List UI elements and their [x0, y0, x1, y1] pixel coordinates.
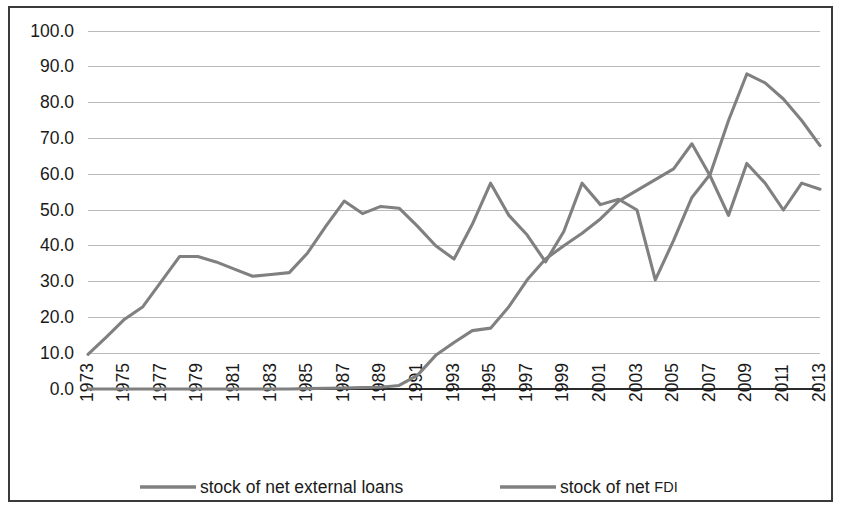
x-axis-tick-labels: 1973197519771979198119831985198719891991… [77, 363, 829, 402]
x-tick-label: 2009 [735, 363, 755, 402]
y-tick-label: 60.0 [40, 164, 74, 184]
chart-legend: stock of net external loansstock of net … [140, 477, 678, 497]
y-tick-label: 50.0 [40, 200, 74, 220]
y-tick-label: 70.0 [40, 128, 74, 148]
x-tick-label: 1989 [369, 363, 389, 402]
y-tick-label: 20.0 [40, 307, 74, 327]
x-tick-label: 1995 [479, 363, 499, 402]
x-tick-label: 2003 [626, 363, 646, 402]
x-tick-label: 1979 [186, 363, 206, 402]
y-tick-label: 40.0 [40, 235, 74, 255]
plot-wrapper: 0.010.020.030.040.050.060.070.080.090.01… [0, 0, 841, 516]
y-tick-label: 10.0 [40, 343, 74, 363]
x-tick-label: 1993 [443, 363, 463, 402]
x-tick-label: 2007 [699, 363, 719, 402]
chart-figure: 0.010.020.030.040.050.060.070.080.090.01… [0, 0, 841, 516]
x-tick-label: 2013 [809, 363, 829, 402]
legend-label: stock of net FDI [560, 477, 678, 497]
x-tick-label: 2001 [589, 363, 609, 402]
data-series-group [88, 74, 820, 389]
y-tick-label: 30.0 [40, 271, 74, 291]
legend-label: stock of net external loans [200, 477, 404, 497]
x-tick-label: 1987 [333, 363, 353, 402]
y-tick-label: 80.0 [40, 92, 74, 112]
y-tick-label: 0.0 [50, 379, 75, 399]
line-chart-svg: 0.010.020.030.040.050.060.070.080.090.01… [0, 0, 841, 516]
y-axis-tick-labels: 0.010.020.030.040.050.060.070.080.090.01… [30, 21, 74, 399]
x-tick-label: 1975 [113, 363, 133, 402]
x-tick-label: 1983 [260, 363, 280, 402]
x-tick-label: 1999 [552, 363, 572, 402]
x-tick-label: 1981 [223, 363, 243, 402]
x-tick-label: 1985 [296, 363, 316, 402]
gridline-group [88, 31, 820, 389]
series-line-stock-of-net-external-loans [88, 144, 820, 389]
y-tick-label: 100.0 [30, 21, 74, 41]
x-tick-label: 1973 [77, 363, 97, 402]
series-line-stock-of-net-fdi [88, 74, 820, 354]
x-tick-label: 2005 [662, 363, 682, 402]
x-tick-label: 1977 [150, 363, 170, 402]
x-tick-label: 1997 [516, 363, 536, 402]
x-tick-label: 2011 [772, 364, 792, 402]
y-tick-label: 90.0 [40, 56, 74, 76]
